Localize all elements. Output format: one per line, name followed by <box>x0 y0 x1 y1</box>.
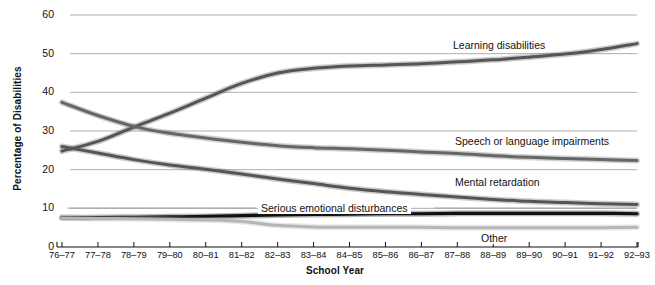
x-tick-label: 88–89 <box>473 250 513 260</box>
x-tick-label: 84–85 <box>330 250 370 260</box>
x-tick-marks <box>62 242 637 247</box>
series-label: Serious emotional disturbances <box>258 202 411 214</box>
x-tick-label: 80–81 <box>186 250 226 260</box>
x-tick-label: 78–79 <box>114 250 154 260</box>
line-chart: Percentage of Disabilities School Year 0… <box>0 0 655 285</box>
y-axis-title: Percentage of Disabilities <box>12 59 23 199</box>
x-tick-label: 87–88 <box>437 250 477 260</box>
series-line <box>62 218 637 228</box>
x-tick-label: 76–77 <box>42 250 82 260</box>
x-tick-label: 89–90 <box>509 250 549 260</box>
series-label: Speech or language impairments <box>452 135 612 147</box>
x-tick-label: 82–83 <box>258 250 298 260</box>
x-tick-label: 77–78 <box>78 250 118 260</box>
x-axis-title: School Year <box>285 265 385 276</box>
y-tick-label: 20 <box>28 163 54 175</box>
series-label: Mental retardation <box>452 176 543 188</box>
x-tick-label: 90–91 <box>545 250 585 260</box>
y-tick-label: 30 <box>28 124 54 136</box>
x-tick-label: 91–92 <box>581 250 621 260</box>
x-tick-label: 83–84 <box>294 250 334 260</box>
x-tick-label: 81–82 <box>222 250 262 260</box>
y-tick-label: 60 <box>28 8 54 20</box>
y-tick-label: 40 <box>28 85 54 97</box>
gridlines <box>70 15 637 208</box>
x-tick-label: 86–87 <box>401 250 441 260</box>
x-tick-label: 85–86 <box>365 250 405 260</box>
x-tick-label: 79–80 <box>150 250 190 260</box>
x-tick-label: 92–93 <box>617 250 655 260</box>
series-label: Learning disabilities <box>450 39 548 51</box>
series-label: Other <box>478 232 510 244</box>
axis-lines <box>57 242 638 247</box>
y-tick-label: 50 <box>28 47 54 59</box>
y-tick-label: 10 <box>28 201 54 213</box>
